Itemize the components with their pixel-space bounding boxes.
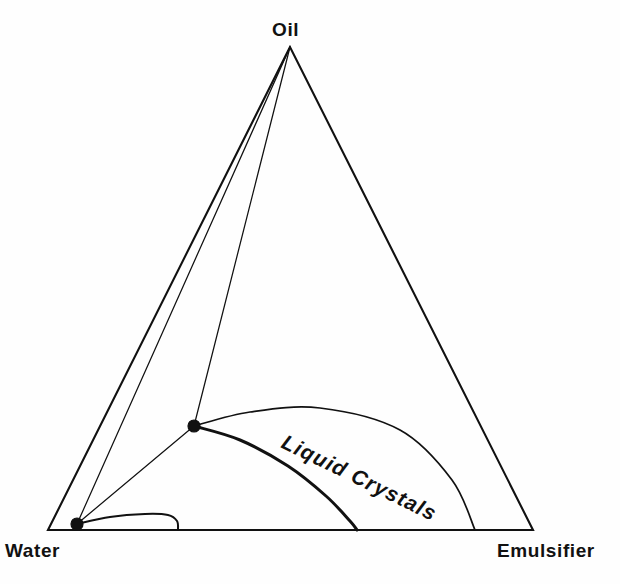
vertex-label-water: Water xyxy=(5,540,60,561)
tie-line-oil-to-upper-node xyxy=(194,47,290,426)
upper-invariant-point-marker xyxy=(188,420,200,432)
tie-line-oil-to-lower-node xyxy=(77,47,290,524)
liquid-crystal-lower-boundary xyxy=(194,426,357,530)
water-rich-phase-boundary xyxy=(77,514,178,530)
phase-diagram-canvas: Oil Water Emulsifier Liquid Crystals xyxy=(0,0,620,584)
lower-invariant-point-marker xyxy=(71,518,83,530)
triangle-outline xyxy=(48,47,533,530)
vertex-label-oil: Oil xyxy=(272,19,299,40)
tie-line-upper-node-to-lower-node xyxy=(77,426,194,524)
vertex-label-emulsifier: Emulsifier xyxy=(497,540,595,561)
ternary-phase-diagram: Oil Water Emulsifier Liquid Crystals xyxy=(0,0,620,584)
